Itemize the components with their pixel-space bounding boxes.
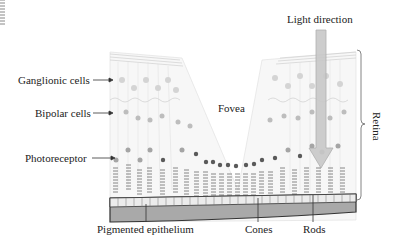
retina-brace [357, 50, 365, 200]
retina-diagram [0, 0, 395, 245]
label-light-direction: Light direction [287, 13, 353, 25]
label-photoreceptor: Photoreceptor [25, 152, 87, 164]
label-pigmented-epithelium: Pigmented epithelium [97, 223, 194, 235]
label-cones: Cones [245, 223, 273, 235]
label-fovea: Fovea [218, 102, 245, 114]
label-retina: Retina [371, 112, 383, 141]
label-bipolar-cells: Bipolar cells [35, 107, 91, 119]
label-rods: Rods [303, 223, 326, 235]
label-ganglionic-cells: Ganglionic cells [18, 74, 90, 86]
